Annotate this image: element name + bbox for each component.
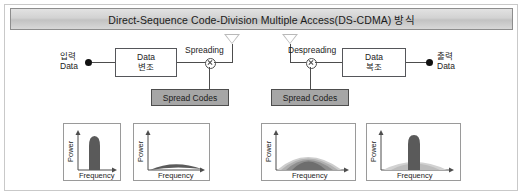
plot4-recovered-peak [408,135,420,170]
wire-modulator-to-spreader [177,62,206,63]
spread-codes-tx-block: Spread Codes [151,89,229,106]
spectrum-plot-3-svg: Power Frequency [262,124,355,180]
data-demodulator-block: Data 복조 [342,48,406,77]
spectrum-plot-4-despread: Power Frequency [366,123,461,181]
spectrum-plot-2-svg: Power Frequency [134,124,209,180]
spreading-label: Spreading [185,46,224,56]
wire-demodulator-to-output [406,62,428,63]
spectrum-plot-4-svg: Power Frequency [367,124,460,180]
wire-despreader-to-codes [310,67,311,89]
plot1-ylabel: Power [66,140,75,162]
spectrum-plot-1-narrowband: Power Frequency [63,123,121,181]
input-label-data: Data [60,62,78,72]
wire-antenna-to-despreader [290,62,306,63]
wire-spreader-to-codes [209,67,210,89]
input-data-label: 입력 Data [60,52,78,72]
plot3-xlabel: Frequency [292,171,328,180]
despreading-label: Despreading [288,46,336,56]
plot1-signal-peak [89,136,100,170]
plot2-xlabel: Frequency [158,171,194,180]
diagram-title-bar: Direct-Sequence Code-Division Multiple A… [10,8,513,30]
plot4-xlabel: Frequency [397,171,433,180]
plot3-y-arrow [274,130,279,135]
spread-codes-rx-label: Spread Codes [283,93,337,103]
spread-codes-tx-label: Spread Codes [163,93,217,103]
output-terminal-dot [426,59,433,66]
demodulator-label-korean: 복조 [366,63,382,73]
plot4-y-arrow [379,130,384,135]
modulator-label-korean: 변조 [138,63,154,73]
plot1-y-arrow [76,130,81,135]
page-title: Direct-Sequence Code-Division Multiple A… [108,12,414,27]
spreading-multiplier-icon [205,58,216,69]
output-data-label: 출력 Data [437,52,455,72]
despreading-multiplier-icon [306,58,317,69]
plot2-signal-spread [150,164,202,170]
wire-despreader-to-demodulator [315,62,342,63]
plot2-ylabel: Power [136,140,145,162]
plot4-x-arrow [449,168,454,173]
wire-spreader-to-antenna [214,62,232,63]
diagram-root: Direct-Sequence Code-Division Multiple A… [0,0,523,196]
data-modulator-block: Data 변조 [115,48,177,77]
plot2-y-arrow [146,130,151,135]
plot3-x-arrow [344,168,349,173]
input-terminal-dot [85,59,92,66]
plot2-x-arrow [200,168,205,173]
spread-codes-rx-block: Spread Codes [271,89,349,106]
spectrum-plot-3-received: Power Frequency [261,123,356,181]
plot1-xlabel: Frequency [79,171,115,180]
wire-input-to-modulator [92,62,115,63]
plot3-ylabel: Power [264,140,273,162]
wire-tx-antenna-stem [232,44,233,63]
spectrum-plot-2-spread: Power Frequency [133,123,210,181]
output-label-data: Data [437,62,455,72]
spectrum-plot-1-svg: Power Frequency [64,124,120,180]
plot4-ylabel: Power [369,140,378,162]
